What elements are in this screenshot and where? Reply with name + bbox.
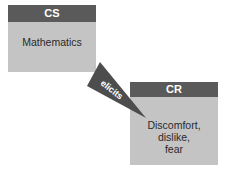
elicits-arrow: elicits — [0, 0, 225, 175]
